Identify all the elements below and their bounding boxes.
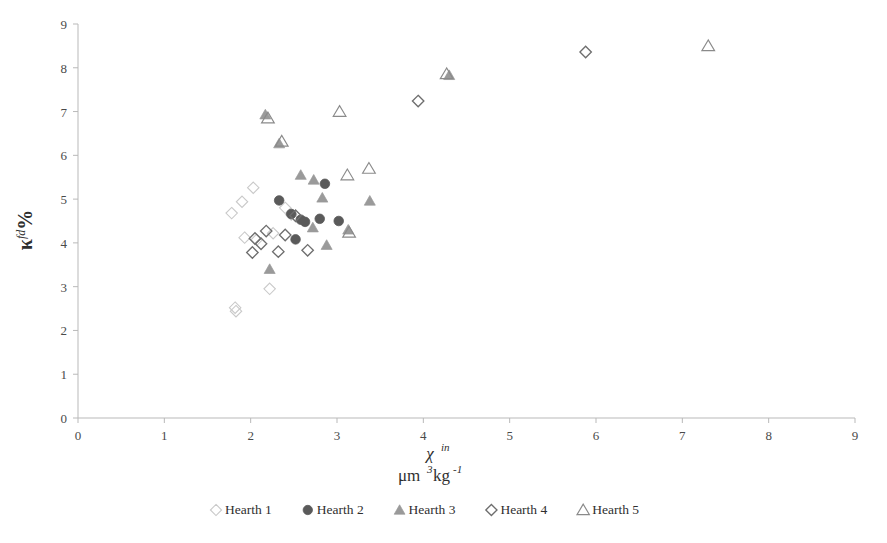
chart-canvas: 01234567890123456789 χinμm3kg-1κfd% Hear… — [0, 0, 887, 543]
data-point — [274, 196, 284, 206]
data-point — [300, 217, 310, 227]
data-point — [412, 95, 423, 106]
y-tick-label: 7 — [61, 105, 68, 120]
data-point — [264, 264, 275, 274]
data-point — [315, 214, 325, 224]
y-tick-label: 5 — [61, 192, 68, 207]
legend-marker-icon — [210, 504, 221, 515]
legend-marker-icon — [394, 505, 405, 514]
y-tick-label: 9 — [61, 17, 68, 32]
data-point — [302, 245, 313, 256]
y-tick-label: 3 — [61, 280, 68, 295]
legend-item-hearth-2[interactable]: Hearth 2 — [303, 502, 364, 517]
series-hearth-4 — [247, 46, 592, 258]
data-point — [363, 163, 376, 174]
x-axis-unit-mid: kg — [433, 466, 451, 485]
data-point — [247, 247, 258, 258]
x-axis-title-symbol-superscript: in — [441, 441, 450, 453]
x-tick-label: 0 — [75, 428, 82, 443]
y-tick-label: 4 — [61, 236, 68, 251]
x-tick-label: 2 — [247, 428, 254, 443]
data-point — [239, 232, 250, 243]
x-tick-label: 4 — [420, 428, 427, 443]
data-point — [264, 283, 275, 294]
y-axis-title: κfd% — [14, 210, 36, 250]
x-tick-label: 3 — [334, 428, 341, 443]
x-axis-title: χinμm3kg-1 — [398, 441, 462, 485]
data-points-layer — [226, 40, 715, 317]
x-tick-label: 8 — [765, 428, 772, 443]
x-tick-label: 6 — [593, 428, 600, 443]
data-point — [580, 46, 591, 57]
data-point — [248, 182, 259, 193]
legend-item-label: Hearth 2 — [317, 502, 364, 517]
y-tick-label: 0 — [61, 411, 68, 426]
series-hearth-2 — [274, 179, 343, 244]
x-axis-unit-superscript-3: 3 — [426, 463, 433, 475]
legend-marker-icon — [577, 504, 589, 514]
legend-item-hearth-1[interactable]: Hearth 1 — [210, 502, 271, 517]
data-point — [291, 235, 301, 245]
x-tick-label: 7 — [679, 428, 686, 443]
data-point — [333, 106, 346, 117]
data-point — [279, 229, 290, 240]
data-point — [317, 192, 328, 202]
data-point — [320, 179, 330, 189]
x-tick-label: 5 — [506, 428, 513, 443]
y-tick-label: 8 — [61, 61, 68, 76]
x-axis-unit-superscript-minus1: -1 — [453, 463, 462, 475]
axes-layer: 01234567890123456789 — [61, 17, 859, 443]
axis-titles-layer: χinμm3kg-1κfd% — [14, 210, 462, 485]
legend-item-label: Hearth 5 — [592, 502, 639, 517]
scatter-chart-root: 01234567890123456789 χinμm3kg-1κfd% Hear… — [0, 0, 887, 543]
data-point — [308, 175, 319, 185]
y-tick-label: 1 — [61, 367, 68, 382]
legend-item-label: Hearth 4 — [500, 502, 547, 517]
series-hearth-3 — [260, 70, 455, 274]
data-point — [334, 216, 344, 226]
x-tick-label: 1 — [161, 428, 168, 443]
legend-item-label: Hearth 3 — [409, 502, 456, 517]
y-tick-label: 2 — [61, 323, 68, 338]
legend-item-label: Hearth 1 — [225, 502, 272, 517]
data-point — [702, 40, 715, 51]
data-point — [343, 224, 354, 234]
data-point — [321, 240, 332, 250]
legend-marker-icon — [486, 504, 497, 515]
legend-item-hearth-4[interactable]: Hearth 4 — [486, 502, 548, 517]
data-point — [295, 170, 306, 180]
data-point — [341, 169, 354, 180]
series-hearth-5 — [262, 40, 715, 237]
legend-item-hearth-3[interactable]: Hearth 3 — [394, 502, 456, 517]
legend-item-hearth-5[interactable]: Hearth 5 — [577, 502, 639, 517]
y-axis-title-text: κfd% — [14, 210, 36, 250]
x-axis-title-symbol: χ — [424, 444, 434, 463]
x-tick-label: 9 — [852, 428, 859, 443]
data-point — [273, 246, 284, 257]
y-tick-label: 6 — [61, 148, 68, 163]
legend-marker-icon — [303, 505, 312, 514]
data-point — [236, 196, 247, 207]
x-axis-unit-base: μm — [398, 466, 420, 485]
data-point — [255, 238, 266, 249]
data-point — [364, 196, 375, 206]
data-point — [226, 207, 237, 218]
legend: Hearth 1Hearth 2Hearth 3Hearth 4Hearth 5 — [210, 502, 639, 517]
